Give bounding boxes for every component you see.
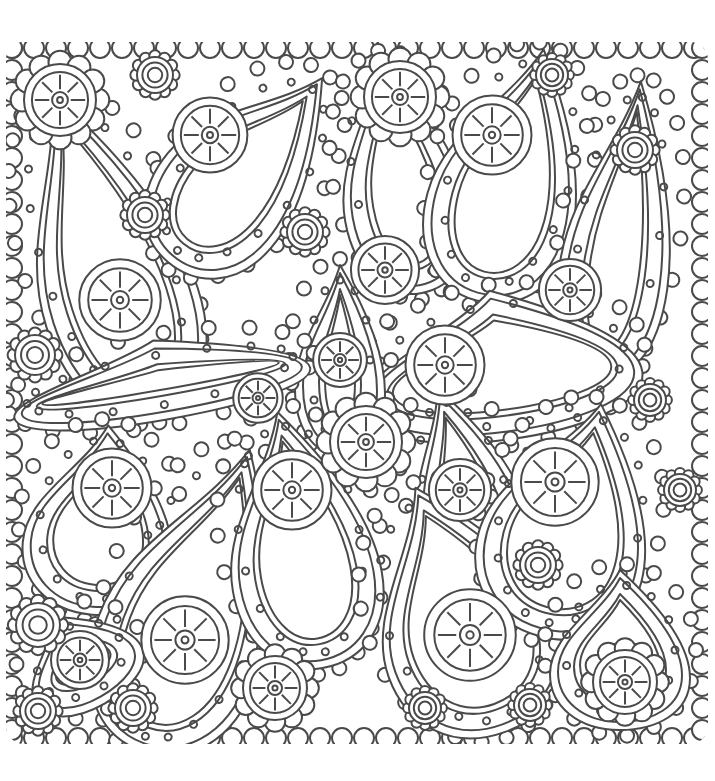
paisley-artwork [0, 0, 715, 781]
paisley-coloring-page [0, 0, 715, 781]
